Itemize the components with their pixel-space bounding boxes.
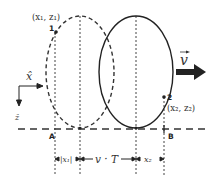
x-axis-label: x̂ — [26, 70, 33, 83]
initial-bottom-marker — [79, 127, 81, 129]
dim-x2-label: x₂ — [144, 155, 152, 164]
dim-x1-label: |x₁| — [60, 155, 72, 164]
point-1-number: 1 — [49, 24, 54, 33]
point-1-marker — [54, 30, 58, 34]
point-1-coords: (x₁, z₁) — [32, 12, 60, 22]
point-2-marker — [162, 95, 166, 99]
point-2-coords: (x₂, z₂) — [167, 103, 195, 113]
velocity-label: v — [180, 52, 188, 68]
point-b-label: B — [168, 132, 174, 141]
point-2-number: 2 — [167, 93, 172, 102]
axes — [17, 84, 44, 107]
velocity-overarrow-head-icon — [186, 51, 190, 54]
z-axis-label: ẑ — [14, 113, 20, 122]
point-a-label: A — [49, 132, 55, 141]
final-bottom-marker — [135, 127, 138, 130]
x-axis-arrowhead-icon — [37, 84, 43, 89]
vertical-guides — [55, 16, 164, 176]
ellipse-translation-diagram: (x₁, z₁) 1 2 (x₂, z₂) A B x̂ ẑ v |x₁| v… — [0, 0, 215, 182]
velocity-symbol: v — [180, 52, 188, 68]
z-axis-arrowhead-icon — [17, 100, 22, 106]
dim-vt-label: v · T — [95, 153, 119, 165]
